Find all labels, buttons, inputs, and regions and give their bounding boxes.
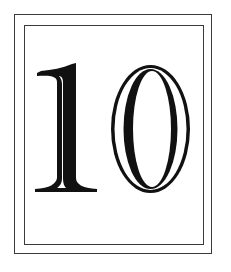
digit-one-outline	[35, 63, 97, 192]
digit-zero-counter	[133, 71, 171, 187]
digit-one: 1	[35, 63, 97, 192]
digit-zero: 0	[111, 65, 190, 193]
numeral-graphic: 1 0	[0, 0, 231, 272]
